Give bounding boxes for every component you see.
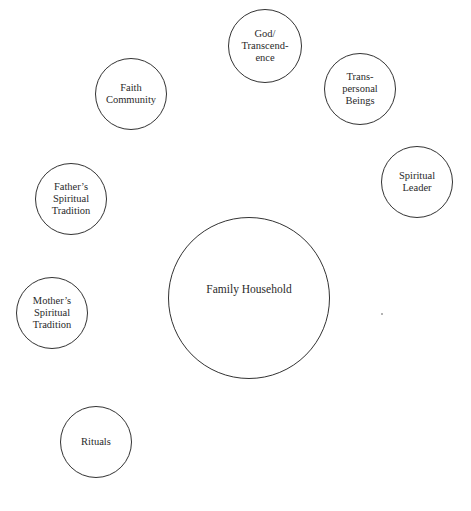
node-label: Mother’s Spiritual Tradition	[33, 295, 72, 331]
ecomap-diagram: Family Household God/ Transcend- ence Fa…	[0, 0, 471, 511]
node-label: Trans- personal Beings	[342, 71, 378, 107]
node-label: Rituals	[81, 436, 111, 448]
node-mothers-spiritual-tradition: Mother’s Spiritual Tradition	[16, 277, 88, 349]
node-faith-community: Faith Community	[95, 58, 167, 130]
node-label: Father’s Spiritual Tradition	[52, 181, 91, 217]
node-god-transcendence: God/ Transcend- ence	[228, 9, 302, 83]
node-label: God/ Transcend- ence	[242, 28, 289, 64]
node-spiritual-leader: Spiritual Leader	[381, 146, 453, 218]
node-label: Family Household	[206, 283, 291, 295]
node-rituals: Rituals	[60, 406, 132, 478]
scan-speck	[381, 313, 383, 315]
node-label: Spiritual Leader	[399, 170, 435, 194]
node-family-household: Family Household	[168, 217, 330, 379]
node-label: Faith Community	[106, 82, 156, 106]
node-transpersonal-beings: Trans- personal Beings	[324, 53, 396, 125]
node-fathers-spiritual-tradition: Father’s Spiritual Tradition	[35, 163, 107, 235]
